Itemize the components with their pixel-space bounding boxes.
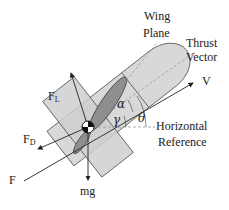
theta-label: θ: [138, 111, 146, 125]
flight-dynamics-diagram: Wing Plane Thrust Vector V FL FD F mg α …: [0, 0, 229, 210]
gamma-label: γ: [113, 113, 121, 127]
velocity-label: V: [202, 74, 211, 88]
thrust-vector-label-2: Vector: [186, 50, 217, 64]
wing-plane-label-1: Wing: [144, 9, 170, 23]
drag-label: FD: [23, 132, 36, 147]
center-of-gravity-icon: [82, 121, 94, 133]
thrust-vector-label-1: Thrust: [186, 36, 218, 50]
horizontal-reference-label-2: Reference: [158, 135, 207, 149]
thrust-force-label: F: [9, 173, 16, 187]
wing-plane-label-2: Plane: [143, 26, 170, 40]
horizontal-reference-label-1: Horizontal: [156, 119, 208, 133]
weight-label: mg: [80, 184, 95, 198]
alpha-label: α: [117, 97, 125, 111]
